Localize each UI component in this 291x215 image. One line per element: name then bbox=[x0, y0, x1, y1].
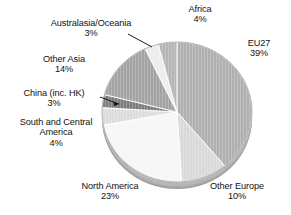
slice-label-other-asia: Other Asia 14% bbox=[24, 54, 104, 75]
slice-label-eu27-name: EU27 bbox=[234, 38, 284, 48]
slice-label-other-europe-percent: 10% bbox=[198, 191, 276, 201]
slice-label-other-europe-name: Other Europe bbox=[198, 181, 276, 191]
slice-label-other-asia-name: Other Asia bbox=[24, 54, 104, 64]
slice-label-eu27-percent: 39% bbox=[234, 48, 284, 58]
slice-label-north-america: North America 23% bbox=[62, 181, 158, 202]
slice-label-south-central-america: South and Central America 4% bbox=[4, 117, 108, 148]
slice-label-south-central-america-percent: 4% bbox=[4, 138, 108, 148]
slice-label-south-central-america-name: South and Central America bbox=[4, 117, 108, 138]
slice-label-africa-name: Africa bbox=[172, 4, 228, 14]
slice-label-australasia-oceania: Australasia/Oceania 3% bbox=[26, 18, 156, 39]
pie-texture-overlay bbox=[102, 42, 252, 182]
slice-label-australasia-oceania-name: Australasia/Oceania bbox=[26, 18, 156, 28]
slice-label-north-america-name: North America bbox=[62, 181, 158, 191]
slice-label-china-hk: China (inc. HK) 3% bbox=[8, 88, 100, 109]
slice-label-china-hk-name: China (inc. HK) bbox=[8, 88, 100, 98]
pie-chart: Africa 4% EU27 39% Other Europe 10% Nort… bbox=[0, 0, 291, 215]
slice-label-eu27: EU27 39% bbox=[234, 38, 284, 59]
slice-label-china-hk-percent: 3% bbox=[8, 98, 100, 108]
slice-label-africa-percent: 4% bbox=[172, 14, 228, 24]
slice-label-north-america-percent: 23% bbox=[62, 191, 158, 201]
slice-label-other-europe: Other Europe 10% bbox=[198, 181, 276, 202]
slice-label-other-asia-percent: 14% bbox=[24, 64, 104, 74]
slice-label-africa: Africa 4% bbox=[172, 4, 228, 25]
slice-label-australasia-oceania-percent: 3% bbox=[26, 28, 156, 38]
